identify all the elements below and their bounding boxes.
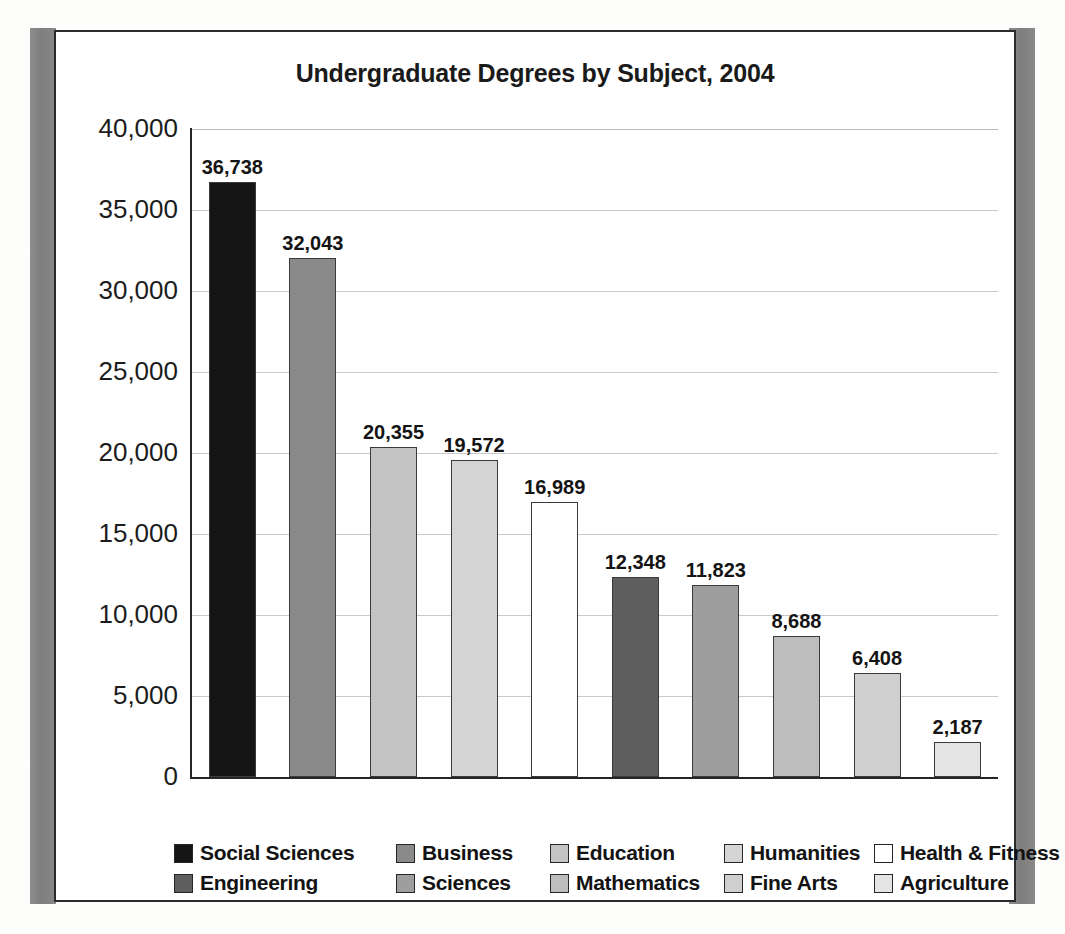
y-axis-tick-label: 15,000 [98,518,178,549]
bar-slot: 6,408 [837,129,918,777]
chart-title: Undergraduate Degrees by Subject, 2004 [56,59,1014,88]
legend-item[interactable]: Fine Arts [724,871,838,895]
legend-label: Agriculture [900,871,1009,895]
bar[interactable]: 36,738 [209,182,256,777]
legend-label: Business [422,841,513,865]
legend-label: Sciences [422,871,511,895]
bar[interactable]: 12,348 [612,577,659,777]
scan-edge-left [30,28,56,904]
legend-swatch [174,874,193,893]
y-axis-tick-label: 5,000 [113,680,178,711]
bar[interactable]: 8,688 [773,636,820,777]
scanned-page: Undergraduate Degrees by Subject, 2004 4… [0,0,1065,934]
legend-item[interactable]: Business [396,841,513,865]
bar-value-label: 32,043 [282,232,343,255]
legend-item[interactable]: Humanities [724,841,860,865]
legend-label: Humanities [750,841,860,865]
bar-value-label: 36,738 [202,156,263,179]
chart-card: Undergraduate Degrees by Subject, 2004 4… [54,30,1016,902]
legend-swatch [396,844,415,863]
legend-swatch [724,844,743,863]
bar-series: 36,73832,04320,35519,57216,98912,34811,8… [192,129,998,777]
bar-slot: 19,572 [434,129,515,777]
y-axis-tick-label: 30,000 [98,275,178,306]
legend-label: Social Sciences [200,841,354,865]
bar-value-label: 16,989 [524,476,585,499]
legend-label: Engineering [200,871,318,895]
legend-swatch [396,874,415,893]
y-axis-tick-label: 0 [164,761,178,792]
bar-slot: 32,043 [273,129,354,777]
legend-swatch [550,844,569,863]
bar[interactable]: 16,989 [531,502,578,777]
bar[interactable]: 32,043 [289,258,336,777]
bar-slot: 36,738 [192,129,273,777]
legend-swatch [174,844,193,863]
legend-swatch [874,874,893,893]
bar[interactable]: 6,408 [854,673,901,777]
plot-area: 40,00035,00030,00025,00020,00015,00010,0… [192,129,998,777]
legend-item[interactable]: Engineering [174,871,318,895]
bar-value-label: 19,572 [443,434,504,457]
y-axis-tick-label: 10,000 [98,599,178,630]
bar-value-label: 2,187 [933,716,983,739]
bar[interactable]: 11,823 [692,585,739,777]
legend-item[interactable]: Agriculture [874,871,1009,895]
legend-row: Social SciencesBusinessEducationHumaniti… [174,838,1004,868]
bar[interactable]: 2,187 [934,742,981,777]
y-axis-tick-label: 35,000 [98,194,178,225]
bar-slot: 11,823 [676,129,757,777]
bar-slot: 8,688 [756,129,837,777]
legend-label: Education [576,841,675,865]
legend-label: Health & Fitness [900,841,1060,865]
bar-value-label: 20,355 [363,421,424,444]
legend-label: Fine Arts [750,871,838,895]
legend-item[interactable]: Health & Fitness [874,841,1060,865]
legend-label: Mathematics [576,871,700,895]
legend-swatch [874,844,893,863]
x-axis-line [190,777,998,779]
y-axis-tick-label: 40,000 [98,113,178,144]
bar-value-label: 12,348 [605,551,666,574]
bar-value-label: 6,408 [852,647,902,670]
bar-value-label: 11,823 [686,559,746,582]
legend-row: EngineeringSciencesMathematicsFine ArtsA… [174,868,1004,898]
bar-slot: 12,348 [595,129,676,777]
bar[interactable]: 20,355 [370,447,417,777]
legend-item[interactable]: Education [550,841,675,865]
legend-swatch [724,874,743,893]
chart-legend: Social SciencesBusinessEducationHumaniti… [174,838,1004,898]
legend-item[interactable]: Social Sciences [174,841,354,865]
bar-slot: 16,989 [514,129,595,777]
y-axis-tick-label: 25,000 [98,356,178,387]
bar-value-label: 8,688 [771,610,821,633]
bar-slot: 2,187 [917,129,998,777]
y-axis-tick-label: 20,000 [98,437,178,468]
legend-item[interactable]: Mathematics [550,871,700,895]
bar[interactable]: 19,572 [451,460,498,777]
legend-item[interactable]: Sciences [396,871,511,895]
bar-slot: 20,355 [353,129,434,777]
legend-swatch [550,874,569,893]
